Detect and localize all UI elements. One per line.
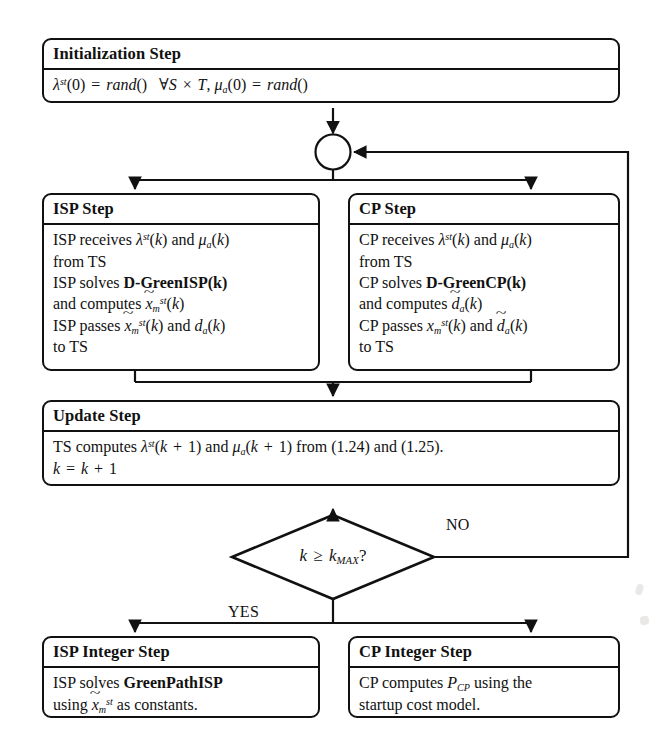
isp-line-2: from TS [53, 251, 309, 272]
node-isp-integer-step[interactable]: ISP Integer Step ISP solves GreenPathISP… [42, 636, 320, 718]
isp-line-1: ISP receives λst(k) and μa(k) [53, 229, 309, 250]
node-isp-step[interactable]: ISP Step ISP receives λst(k) and μa(k) f… [42, 193, 320, 371]
isp-line-5: ISP passes ~xmst(k) and da(k) [53, 315, 309, 336]
node-cp-integer-step[interactable]: CP Integer Step CP computes PCP using th… [348, 636, 620, 718]
node-update-step-header: Update Step [44, 402, 618, 432]
decision-label: k ≥ kMAX? [233, 546, 433, 566]
cp-integer-line-1: CP computes PCP using the [359, 672, 609, 693]
node-cp-integer-step-body: CP computes PCP using the startup cost m… [350, 668, 618, 718]
cp-line-5: CP passes xmst(k) and ~da(k) [359, 315, 609, 336]
edge-label-yes: YES [228, 603, 259, 621]
cp-line-1: CP receives λst(k) and μa(k) [359, 229, 609, 250]
node-update-step[interactable]: Update Step TS computes λst(k + 1) and μ… [42, 400, 620, 486]
equation-line: λst(0) = rand() ∀S × T, μa(0) = rand() [53, 74, 609, 95]
node-update-step-body: TS computes λst(k + 1) and μa(k + 1) fro… [44, 432, 618, 484]
update-line-1: TS computes λst(k + 1) and μa(k + 1) fro… [53, 436, 609, 457]
node-cp-integer-step-header: CP Integer Step [350, 638, 618, 668]
node-cp-step[interactable]: CP Step CP receives λst(k) and μa(k) fro… [348, 193, 620, 371]
isp-line-3: ISP solves D-GreenISP(k) [53, 272, 309, 293]
isp-line-6: to TS [53, 336, 309, 357]
cp-integer-line-2: startup cost model. [359, 694, 609, 715]
node-cp-step-body: CP receives λst(k) and μa(k) from TS CP … [350, 225, 618, 362]
node-isp-step-header: ISP Step [44, 195, 318, 225]
cp-line-6: to TS [359, 336, 609, 357]
node-isp-integer-step-header: ISP Integer Step [44, 638, 318, 668]
update-line-2: k = k + 1 [53, 458, 609, 479]
node-initialization-step-body: λst(0) = rand() ∀S × T, μa(0) = rand() [44, 70, 618, 100]
cp-line-4: and computes ~da(k) [359, 293, 609, 314]
scan-speck [639, 615, 649, 625]
isp-integer-line-2: using ~xmst as constants. [53, 694, 309, 715]
node-initialization-step[interactable]: Initialization Step λst(0) = rand() ∀S ×… [42, 38, 620, 103]
node-cp-step-header: CP Step [350, 195, 618, 225]
node-isp-integer-step-body: ISP solves GreenPathISP using ~xmst as c… [44, 668, 318, 718]
edge-label-no: NO [446, 516, 470, 534]
node-initialization-step-header: Initialization Step [44, 40, 618, 70]
scan-speck [634, 583, 644, 596]
cp-line-2: from TS [359, 251, 609, 272]
flowchart-canvas: Initialization Step λst(0) = rand() ∀S ×… [0, 0, 666, 756]
cp-line-3: CP solves D-GreenCP(k) [359, 272, 609, 293]
merge-junction-circle [316, 135, 351, 170]
isp-line-4: and computes ~xmst(k) [53, 293, 309, 314]
node-isp-step-body: ISP receives λst(k) and μa(k) from TS IS… [44, 225, 318, 362]
